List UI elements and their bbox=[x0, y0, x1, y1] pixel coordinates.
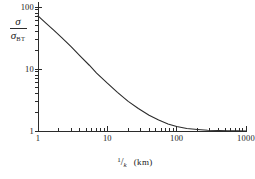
y-tick-major bbox=[35, 7, 42, 8]
x-tick-minor bbox=[165, 128, 166, 131]
x-tick-major bbox=[107, 126, 108, 132]
x-tick-minor bbox=[96, 128, 97, 131]
y-tick-minor bbox=[35, 82, 38, 83]
y-tick-minor bbox=[35, 71, 38, 72]
x-tick-minor bbox=[225, 128, 226, 131]
plot-area bbox=[0, 0, 255, 179]
x-tick-minor bbox=[169, 128, 170, 131]
y-tick-label-text: 100 bbox=[0, 3, 34, 12]
x-tick-minor bbox=[140, 128, 141, 131]
y-tick-minor bbox=[35, 20, 38, 21]
x-tick-minor bbox=[100, 128, 101, 131]
y-tick-minor bbox=[35, 16, 38, 17]
y-tick-minor bbox=[35, 39, 38, 40]
x-tick-major bbox=[176, 126, 177, 132]
x-tick-minor bbox=[58, 128, 59, 131]
x-tick-label: 1 bbox=[18, 134, 58, 143]
x-tick-minor bbox=[128, 128, 129, 131]
y-tick-minor bbox=[35, 78, 38, 79]
x-tick-minor bbox=[197, 128, 198, 131]
x-tick-minor bbox=[235, 128, 236, 131]
y-tick-label-text: 10 bbox=[0, 65, 34, 74]
data-series-line bbox=[38, 16, 246, 131]
x-tick-minor bbox=[149, 128, 150, 131]
x-tick-minor bbox=[86, 128, 87, 131]
y-tick-minor bbox=[35, 93, 38, 94]
x-tick-major bbox=[38, 126, 39, 132]
y-tick-minor bbox=[35, 25, 38, 26]
x-tick-minor bbox=[230, 128, 231, 131]
y-tick-minor bbox=[35, 9, 38, 10]
x-tick-label: 100 bbox=[157, 134, 197, 143]
x-tick-minor bbox=[161, 128, 162, 131]
y-tick-minor bbox=[35, 112, 38, 113]
x-tick-minor bbox=[218, 128, 219, 131]
x-tick-major bbox=[246, 126, 247, 132]
x-tick-minor bbox=[155, 128, 156, 131]
x-tick-minor bbox=[71, 128, 72, 131]
y-tick-major bbox=[35, 131, 42, 132]
y-tick-minor bbox=[35, 50, 38, 51]
x-tick-label: 1000 bbox=[226, 134, 255, 143]
figure-canvas: σ σBT 1/k(km) 110100 1101001000 bbox=[0, 0, 255, 179]
y-tick-minor bbox=[35, 101, 38, 102]
x-tick-minor bbox=[91, 128, 92, 131]
x-tick-minor bbox=[79, 128, 80, 131]
x-tick-minor bbox=[242, 128, 243, 131]
y-tick-major bbox=[35, 69, 42, 70]
y-tick-minor bbox=[35, 13, 38, 14]
y-tick-label: 10 bbox=[0, 65, 34, 74]
x-tick-minor bbox=[173, 128, 174, 131]
y-tick-minor bbox=[35, 75, 38, 76]
x-tick-label: 10 bbox=[87, 134, 127, 143]
x-tick-minor bbox=[104, 128, 105, 131]
y-tick-minor bbox=[35, 87, 38, 88]
y-tick-label: 100 bbox=[0, 3, 34, 12]
x-tick-minor bbox=[209, 128, 210, 131]
y-tick-minor bbox=[35, 31, 38, 32]
x-tick-minor bbox=[239, 128, 240, 131]
